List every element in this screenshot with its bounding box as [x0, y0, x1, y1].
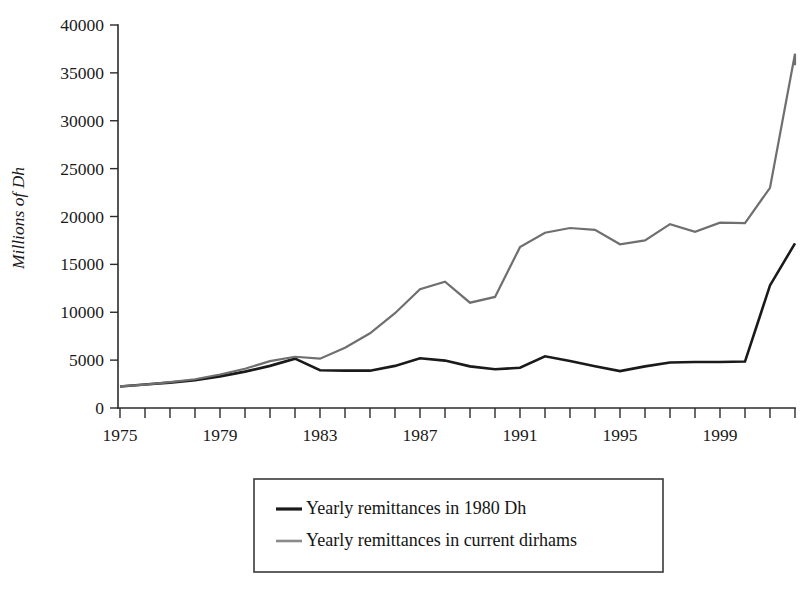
legend-label-1: Yearly remittances in current dirhams — [306, 530, 577, 550]
x-tick-label: 1975 — [103, 425, 138, 445]
y-tick-label: 35000 — [60, 63, 104, 83]
y-axis-group: 0500010000150002000025000300003500040000 — [60, 15, 118, 418]
chart-page: 0500010000150002000025000300003500040000… — [0, 0, 807, 589]
y-tick-label: 20000 — [60, 207, 104, 227]
data-series-layer — [120, 54, 795, 387]
x-tick-label: 1995 — [603, 425, 638, 445]
legend: Yearly remittances in 1980 DhYearly remi… — [254, 479, 663, 572]
y-tick-label: 30000 — [60, 111, 104, 131]
y-tick-label: 25000 — [60, 159, 104, 179]
y-tick-label: 0 — [95, 398, 104, 418]
y-tick-label: 10000 — [60, 302, 104, 322]
series-line-1 — [120, 54, 795, 387]
remittances-line-chart: 0500010000150002000025000300003500040000… — [0, 0, 807, 589]
legend-label-0: Yearly remittances in 1980 Dh — [306, 498, 526, 518]
y-axis-ticks — [110, 25, 118, 408]
y-axis-tick-labels: 0500010000150002000025000300003500040000 — [60, 15, 104, 418]
x-tick-label: 1991 — [503, 425, 538, 445]
y-tick-label: 5000 — [69, 350, 104, 370]
x-axis-ticks — [120, 408, 795, 418]
series-line-0 — [120, 243, 795, 386]
x-axis-tick-labels: 1975197919831987199119951999 — [103, 425, 738, 445]
x-tick-label: 1983 — [303, 425, 338, 445]
y-axis-title: Millions of Dh — [8, 167, 28, 270]
x-axis-group: 1975197919831987199119951999 — [103, 408, 796, 445]
y-tick-label: 40000 — [60, 15, 104, 35]
y-tick-label: 15000 — [60, 254, 104, 274]
x-tick-label: 1979 — [203, 425, 238, 445]
x-tick-label: 1999 — [703, 425, 738, 445]
x-tick-label: 1987 — [403, 425, 438, 445]
legend-box — [254, 479, 663, 572]
